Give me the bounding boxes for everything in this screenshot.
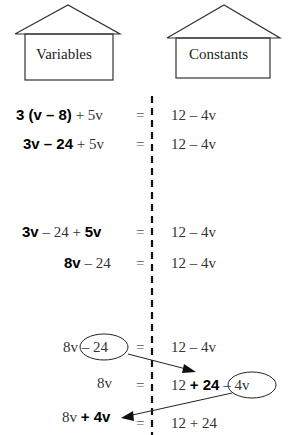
row-7-left: 8v + 4v [62,408,110,426]
row-7-right: 12 + 24 [171,414,217,432]
equals-sign: = [136,254,144,272]
circled-term: – 24 [82,339,108,355]
variables-house-icon [15,5,120,80]
constants-house-icon [167,5,280,78]
row-5-left: 8v – 24 [63,338,108,356]
row-3-left: 3v – 24 + 5v [22,223,101,241]
row-6-left: 8v [97,374,112,392]
equals-sign: = [136,106,144,124]
constants-label: Constants [189,46,248,63]
row-5-right: 12 – 4v [171,338,216,356]
equals-sign: = [136,223,144,241]
circled-term: – 4v [219,377,249,393]
row-1-right: 12 – 4v [171,106,216,124]
row-1-left: 3 (v – 8) + 5v [16,106,103,124]
equals-sign: = [136,414,144,432]
row-2-right: 12 – 4v [171,135,216,153]
row-4-right: 12 – 4v [171,254,216,272]
row-2-left: 3v – 24 + 5v [23,135,104,153]
variables-label: Variables [36,46,92,63]
equals-sign: = [136,376,144,394]
equals-sign: = [136,135,144,153]
arrow-move-24 [128,354,196,373]
row-3-right: 12 – 4v [171,223,216,241]
row-4-left: 8v – 24 [64,254,111,272]
row-6-right: 12 + 24 – 4v [171,376,249,394]
equals-sign: = [136,338,144,356]
diagram-graphics [0,0,289,435]
